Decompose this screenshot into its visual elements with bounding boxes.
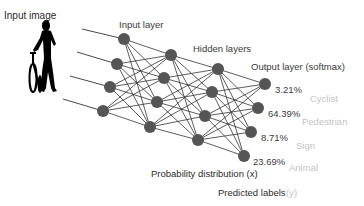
node-output-3 [245, 126, 257, 138]
probability-distribution-label: Probability distribution (x) [151, 168, 258, 179]
neural-network-diagram: Input image Input layer Hidden layers Ou… [0, 0, 364, 206]
output-probability-cyclist: 3.21% [275, 84, 302, 95]
node-input-3 [104, 81, 116, 93]
input-image-label: Input image [4, 10, 56, 21]
output-layer-label: Output layer (softmax) [251, 61, 345, 72]
output-label-cyclist: Cyclist [310, 93, 338, 104]
input-lines [63, 29, 124, 111]
predicted-labels-variable: (y) [286, 187, 297, 198]
node-output-1 [259, 78, 271, 90]
output-label-pedestrian: Pedestrian [302, 116, 347, 127]
output-probability-animal: 23.69% [253, 156, 285, 167]
node-hidden-1-1 [165, 49, 177, 61]
node-hidden-2-4 [192, 134, 204, 146]
output-probability-sign: 8.71% [261, 132, 288, 143]
network-connections [103, 39, 265, 156]
node-input-4 [97, 105, 109, 117]
node-hidden-2-3 [199, 110, 211, 122]
output-label-animal: Animal [289, 162, 318, 173]
node-input-2 [111, 58, 123, 70]
person-with-bicycle-icon [30, 20, 58, 93]
node-output-2 [252, 102, 264, 114]
node-hidden-1-3 [151, 96, 163, 108]
node-hidden-2-2 [206, 86, 218, 98]
node-input-1 [118, 33, 130, 45]
node-hidden-1-2 [158, 72, 170, 84]
predicted-labels-label: Predicted labels [218, 187, 286, 198]
node-hidden-1-4 [144, 121, 156, 133]
output-probability-pedestrian: 64.39% [268, 108, 300, 119]
node-output-4 [238, 150, 250, 162]
input-layer-label: Input layer [119, 19, 163, 30]
hidden-layers-label: Hidden layers [193, 43, 251, 54]
node-hidden-2-1 [212, 63, 224, 75]
output-label-sign: Sign [296, 140, 315, 151]
